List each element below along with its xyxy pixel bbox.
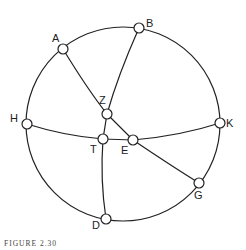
node-t <box>98 134 108 144</box>
label-b: B <box>146 17 153 29</box>
label-k: K <box>226 117 234 129</box>
node-g <box>194 178 204 188</box>
arc-htek <box>27 123 220 140</box>
arc-bztd <box>102 28 139 219</box>
node-z <box>102 109 112 119</box>
node-a <box>58 44 68 54</box>
label-g: G <box>194 189 203 201</box>
geometry-diagram: ABHKZTEGD <box>0 0 246 250</box>
label-d: D <box>92 219 100 231</box>
label-h: H <box>10 112 18 124</box>
node-e <box>128 135 138 145</box>
outer-circle <box>26 27 220 221</box>
node-h <box>22 119 32 129</box>
label-z: Z <box>99 94 106 106</box>
node-b <box>134 23 144 33</box>
label-e: E <box>121 144 128 156</box>
label-a: A <box>52 32 60 44</box>
figure-caption: FIGURE 2.30 <box>4 239 57 248</box>
arc-azeg <box>63 49 199 183</box>
node-d <box>101 214 111 224</box>
label-t: T <box>90 143 97 155</box>
node-k <box>215 118 225 128</box>
